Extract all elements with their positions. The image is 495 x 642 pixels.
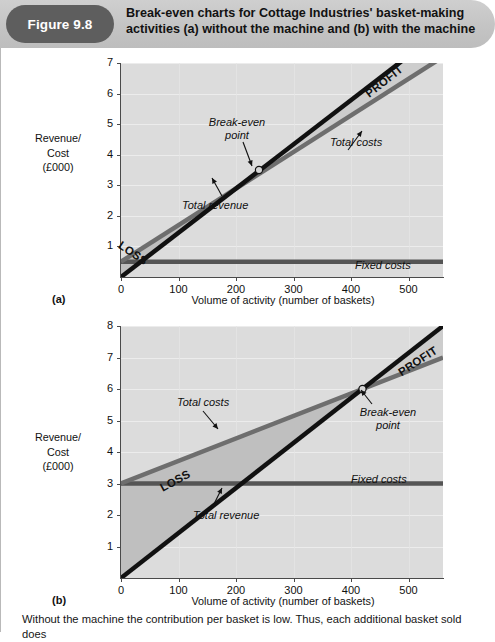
chart-b-break-even-label: Break-even point bbox=[340, 406, 436, 432]
y-axis-tick bbox=[117, 358, 121, 359]
chart-a-break-even-line-1: Break-even bbox=[209, 116, 265, 128]
y-axis-tick-label: 8 bbox=[95, 319, 113, 331]
chart-b-x-axis bbox=[120, 578, 444, 579]
y-axis-tick-label: 5 bbox=[95, 414, 113, 426]
x-axis-tick bbox=[121, 578, 122, 582]
y-axis-tick-label: 7 bbox=[95, 56, 113, 68]
chart-a: Revenue/ Cost (£000) 1234567 01002003004… bbox=[0, 0, 495, 310]
x-axis-tick bbox=[236, 277, 237, 281]
chart-b-panel-letter-text: (b) bbox=[52, 594, 66, 606]
chart-a-panel-letter: (a) bbox=[52, 293, 65, 305]
chart-a-total-revenue-label-text: Total revenue bbox=[182, 199, 248, 211]
chart-a-total-costs-label-text: Total costs bbox=[330, 136, 382, 148]
y-axis-tick-label: 3 bbox=[95, 178, 113, 190]
y-axis-tick-label: 7 bbox=[95, 351, 113, 363]
chart-b-fixed-costs-label: Fixed costs bbox=[351, 473, 407, 486]
y-axis-tick bbox=[117, 484, 121, 485]
x-axis-tick bbox=[236, 578, 237, 582]
y-axis-tick bbox=[117, 185, 121, 186]
chart-a-break-even-label: Break-even point bbox=[192, 116, 282, 142]
chart-a-x-axis-title-text: Volume of activity (number of baskets) bbox=[191, 294, 374, 306]
chart-a-fixed-costs-label: Fixed costs bbox=[355, 259, 411, 272]
chart-b-total-costs-label: Total costs bbox=[177, 396, 229, 409]
y-axis-tick bbox=[117, 326, 121, 327]
y-axis-tick-label: 4 bbox=[95, 445, 113, 457]
chart-b-total-revenue-label: Total revenue bbox=[193, 509, 259, 522]
y-axis-tick bbox=[117, 155, 121, 156]
chart-a-break-even-line-2: point bbox=[225, 129, 249, 141]
chart-a-panel-letter-text: (a) bbox=[52, 293, 65, 305]
x-axis-tick-label: 500 bbox=[394, 584, 424, 596]
chart-b-break-even-line-2: point bbox=[376, 419, 400, 431]
chart-a-x-axis-title: Volume of activity (number of baskets) bbox=[183, 294, 383, 306]
y-axis-tick bbox=[117, 421, 121, 422]
x-axis-tick bbox=[351, 578, 352, 582]
y-axis-tick-label: 1 bbox=[95, 239, 113, 251]
x-axis-tick-label: 0 bbox=[106, 584, 136, 596]
y-axis-tick-label: 2 bbox=[95, 508, 113, 520]
y-axis-tick bbox=[117, 94, 121, 95]
y-axis-tick-label: 6 bbox=[95, 382, 113, 394]
y-axis-tick-label: 3 bbox=[95, 477, 113, 489]
y-axis-tick bbox=[117, 452, 121, 453]
chart-b-x-axis-title-text: Volume of activity (number of baskets) bbox=[191, 595, 374, 607]
x-axis-tick bbox=[179, 578, 180, 582]
x-axis-tick-label: 500 bbox=[394, 283, 424, 295]
chart-a-total-revenue-label: Total revenue bbox=[182, 199, 248, 212]
x-axis-tick bbox=[294, 578, 295, 582]
chart-b-break-even-line-1: Break-even bbox=[360, 406, 416, 418]
y-axis-tick bbox=[117, 547, 121, 548]
series-line-total-costs bbox=[121, 57, 443, 262]
x-axis-tick bbox=[409, 277, 410, 281]
chart-b-total-costs-label-text: Total costs bbox=[177, 396, 229, 408]
break-even-point-marker bbox=[255, 166, 262, 173]
x-axis-tick bbox=[351, 277, 352, 281]
chart-b-x-axis-title: Volume of activity (number of baskets) bbox=[183, 595, 383, 607]
x-axis-tick bbox=[179, 277, 180, 281]
figure-caption-text: Without the machine the contribution per… bbox=[22, 613, 461, 640]
chart-a-total-costs-label: Total costs bbox=[330, 136, 382, 149]
y-axis-tick bbox=[117, 389, 121, 390]
x-axis-tick bbox=[294, 277, 295, 281]
chart-a-fixed-costs-label-text: Fixed costs bbox=[355, 259, 411, 271]
series-line-total-revenue bbox=[121, 326, 443, 578]
x-axis-tick bbox=[409, 578, 410, 582]
y-axis-tick-label: 6 bbox=[95, 87, 113, 99]
x-axis-tick-label: 0 bbox=[106, 283, 136, 295]
chart-b-panel-letter: (b) bbox=[52, 594, 66, 606]
y-axis-tick bbox=[117, 63, 121, 64]
figure-caption: Without the machine the contribution per… bbox=[22, 612, 482, 642]
y-axis-tick-label: 5 bbox=[95, 117, 113, 129]
chart-a-x-axis bbox=[120, 277, 444, 278]
chart-a-graphics bbox=[0, 0, 495, 310]
y-axis-tick-label: 4 bbox=[95, 148, 113, 160]
y-axis-tick-label: 2 bbox=[95, 209, 113, 221]
y-axis-tick bbox=[117, 216, 121, 217]
chart-b: Revenue/ Cost (£000) 12345678 0100200300… bbox=[0, 310, 495, 612]
y-axis-tick bbox=[117, 124, 121, 125]
y-axis-tick-label: 1 bbox=[95, 540, 113, 552]
x-axis-tick bbox=[121, 277, 122, 281]
chart-b-fixed-costs-label-text: Fixed costs bbox=[351, 473, 407, 485]
y-axis-tick bbox=[117, 515, 121, 516]
chart-b-total-revenue-label-text: Total revenue bbox=[193, 509, 259, 521]
